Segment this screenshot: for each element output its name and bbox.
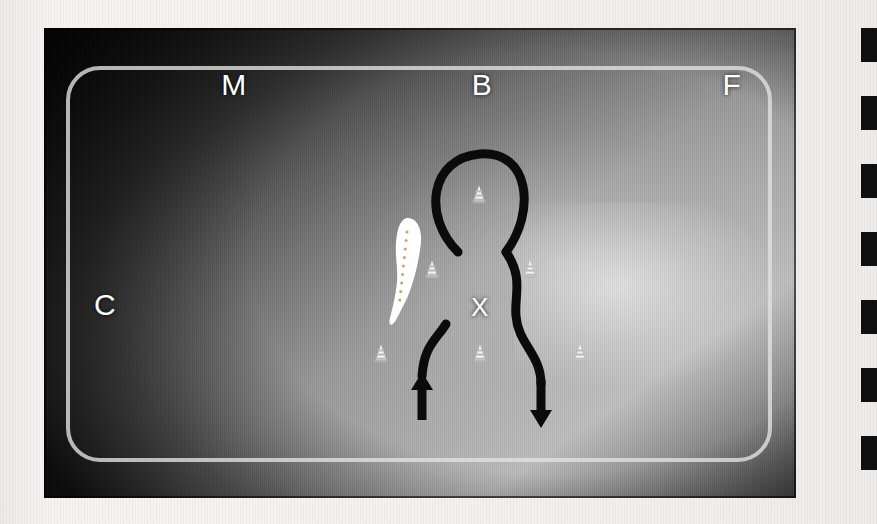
binding-hole-4: [861, 232, 877, 266]
exit-arrow-head: [530, 410, 552, 428]
binding-hole-2: [861, 96, 877, 130]
ride-path-right-descent: [506, 252, 541, 384]
exit-arrow: [530, 380, 552, 428]
binding-hole-7: [861, 436, 877, 470]
entry-arrow-head: [411, 372, 433, 390]
binding-hole-1: [861, 28, 877, 62]
arena-photo-panel: MBFCAHEKX: [44, 28, 796, 498]
binding-hole-5: [861, 300, 877, 334]
binding-hole-6: [861, 368, 877, 402]
ride-path-layer: [44, 28, 796, 498]
page-background: MBFCAHEKX: [0, 0, 877, 524]
entry-arrow: [411, 372, 433, 420]
page-binding-edge: [855, 0, 877, 524]
ride-path-upper-loop: [436, 154, 524, 252]
ride-path-left-descent: [422, 324, 446, 376]
ride-path-arrows: [411, 372, 552, 428]
binding-hole-3: [861, 164, 877, 198]
ride-path-strokes: [422, 154, 541, 384]
